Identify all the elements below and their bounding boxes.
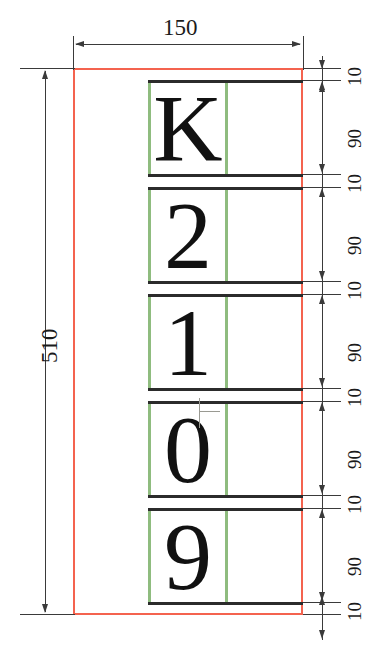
cell-border-right [225, 508, 228, 605]
cell-border-top [148, 187, 303, 190]
dimension-label-gap: 10 [345, 602, 364, 621]
dimension-label-char-height: 90 [345, 450, 364, 469]
arrow-height-top [42, 70, 48, 79]
character-glyph: K [148, 80, 228, 177]
character-cell: 9 [148, 508, 228, 605]
cell-border-bottom [148, 602, 303, 605]
witness-line [303, 68, 341, 69]
cell-border-right [225, 401, 228, 498]
arrow-char-up [319, 81, 325, 90]
dimension-label-char-height: 90 [345, 343, 364, 362]
dimension-line-char-height [322, 510, 323, 600]
dimension-line-char-height [322, 403, 323, 493]
dimension-label-gap: 10 [345, 281, 364, 300]
arrow-height-bottom [42, 604, 48, 613]
arrow-char-up [319, 509, 325, 518]
dimension-label-gap: 10 [345, 388, 364, 407]
cell-border-bottom [148, 495, 303, 498]
dimension-label-char-height: 90 [345, 557, 364, 576]
cell-border-left [148, 80, 151, 177]
arrow-width-right [292, 41, 301, 47]
cell-border-bottom [148, 388, 303, 391]
witness-line [303, 614, 341, 615]
witness-line-left-top [73, 36, 74, 70]
cell-border-top [148, 401, 303, 404]
character-cell: 2 [148, 187, 228, 284]
arrow-gap-down [319, 630, 325, 639]
witness-line-bottom-left [20, 614, 75, 615]
cell-border-top [148, 80, 303, 83]
dimension-line-char-height [322, 82, 323, 172]
technical-drawing-canvas: 150 510 K 2 1 0 9 [0, 0, 371, 669]
dimension-line-char-height [322, 189, 323, 279]
cursor-crosshair-icon [186, 398, 220, 428]
dimension-label-height: 510 [38, 329, 61, 364]
witness-line-top-left [20, 68, 75, 69]
cell-border-top [148, 294, 303, 297]
dimension-label-char-height: 90 [345, 236, 364, 255]
dimension-label-width: 150 [163, 16, 198, 39]
character-glyph: 9 [148, 508, 228, 605]
cell-border-right [225, 80, 228, 177]
cell-border-bottom [148, 174, 303, 177]
cell-border-left [148, 294, 151, 391]
dimension-label-gap: 10 [345, 67, 364, 86]
cell-border-right [225, 294, 228, 391]
character-glyph: 1 [148, 294, 228, 391]
cell-border-left [148, 401, 151, 498]
cell-border-left [148, 187, 151, 284]
cell-border-right [225, 187, 228, 284]
character-glyph: 2 [148, 187, 228, 284]
arrow-char-up [319, 402, 325, 411]
character-cell: K [148, 80, 228, 177]
arrow-width-left [75, 41, 84, 47]
arrow-gap-up [319, 596, 325, 605]
cell-border-top [148, 508, 303, 511]
dimension-line-char-height [322, 296, 323, 386]
character-cell: 1 [148, 294, 228, 391]
witness-line-right-top [303, 36, 304, 70]
dimension-label-char-height: 90 [345, 129, 364, 148]
dimension-line-width [76, 44, 300, 45]
cell-border-left [148, 508, 151, 605]
arrow-char-up [319, 188, 325, 197]
dimension-label-gap: 10 [345, 495, 364, 514]
cell-border-bottom [148, 281, 303, 284]
arrow-char-up [319, 295, 325, 304]
dimension-label-gap: 10 [345, 174, 364, 193]
